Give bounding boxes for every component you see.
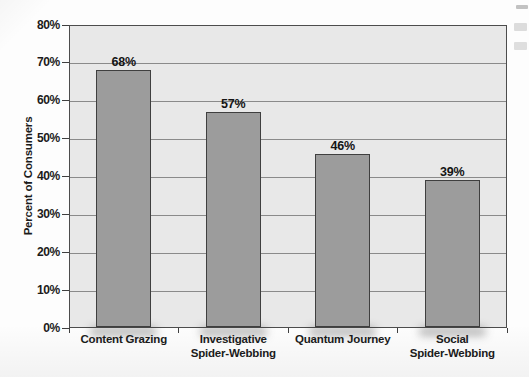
bar-value-label: 57% (203, 97, 263, 111)
y-tick-label: 0% (10, 322, 60, 335)
x-category-label-line: Spider-Webbing (387, 347, 517, 361)
y-tick-label: 50% (10, 132, 60, 145)
bar-value-label: 68% (94, 55, 154, 69)
scan-artifact (514, 42, 527, 50)
y-tick-mark (62, 176, 69, 177)
y-tick-mark (62, 62, 69, 63)
scan-artifact (516, 5, 528, 9)
y-tick-mark (62, 100, 69, 101)
y-tick-label: 20% (10, 246, 60, 259)
y-tick-label: 70% (10, 56, 60, 69)
y-tick-label: 40% (10, 170, 60, 183)
y-tick-label: 10% (10, 284, 60, 297)
bar-social-spider-webbing (425, 180, 480, 327)
y-tick-mark (62, 290, 69, 291)
x-category-label-line: Social (387, 333, 517, 347)
y-tick-mark (62, 214, 69, 215)
bar-chart-figure: Percent of Consumers 0%10%20%30%40%50%60… (0, 0, 529, 377)
x-category-label-line: Spider-Webbing (168, 347, 298, 361)
bar-value-label: 39% (422, 165, 482, 179)
bar-quantum-journey (315, 154, 370, 327)
x-category-label: SocialSpider-Webbing (387, 333, 517, 360)
y-tick-label: 80% (10, 19, 60, 32)
bar-value-label: 46% (313, 139, 373, 153)
y-tick-mark (62, 25, 69, 26)
y-tick-mark (62, 252, 69, 253)
bar-investigative-spider-webbing (206, 112, 261, 327)
y-tick-label: 60% (10, 94, 60, 107)
bar-content-grazing (96, 70, 151, 327)
scan-artifact (514, 23, 527, 31)
y-tick-label: 30% (10, 208, 60, 221)
y-tick-mark (62, 138, 69, 139)
